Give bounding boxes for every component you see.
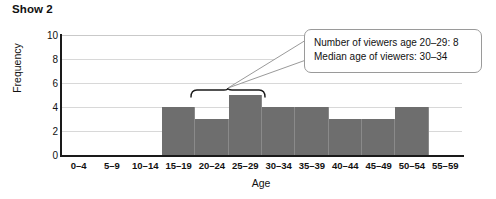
bar-40-44 bbox=[329, 119, 362, 155]
x-tick-50-54: 50–54 bbox=[395, 160, 428, 171]
bar-35-39 bbox=[295, 107, 328, 155]
x-tick-30-34: 30–34 bbox=[262, 160, 295, 171]
callout-box: Number of viewers age 20–29: 8 Median ag… bbox=[304, 29, 482, 73]
x-tick-20-24: 20–24 bbox=[195, 160, 228, 171]
x-tick-40-44: 40–44 bbox=[329, 160, 362, 171]
bar-20-24 bbox=[195, 119, 228, 155]
bar-30-34 bbox=[262, 107, 295, 155]
x-tick-5-9: 5–9 bbox=[95, 160, 128, 171]
y-axis-ticks: 10 8 6 4 2 0 bbox=[0, 0, 58, 199]
x-tick-0-4: 0–4 bbox=[62, 160, 95, 171]
x-tick-35-39: 35–39 bbox=[295, 160, 328, 171]
x-tick-10-14: 10–14 bbox=[129, 160, 162, 171]
x-axis-label-text: Age bbox=[226, 177, 271, 189]
bar-15-19 bbox=[162, 107, 195, 155]
x-tick-55-59: 55–59 bbox=[429, 160, 462, 171]
y-axis-label: Frequency bbox=[11, 13, 23, 123]
y-tick-2: 2 bbox=[14, 127, 58, 137]
bar-50-54 bbox=[395, 107, 428, 155]
y-tick-0: 0 bbox=[14, 151, 58, 161]
histogram-figure: Show 2 10 8 6 4 2 0 Frequency 0–4 5–9 10… bbox=[0, 0, 496, 199]
bar-45-49 bbox=[362, 119, 395, 155]
x-tick-15-19: 15–19 bbox=[162, 160, 195, 171]
callout-line-2: Median age of viewers: 30–34 bbox=[314, 50, 481, 64]
x-tick-45-49: 45–49 bbox=[362, 160, 395, 171]
x-tick-25-29: 25–29 bbox=[229, 160, 262, 171]
x-axis-label: Age bbox=[0, 177, 496, 189]
x-axis-line bbox=[60, 155, 464, 157]
callout-line-1: Number of viewers age 20–29: 8 bbox=[314, 36, 481, 50]
